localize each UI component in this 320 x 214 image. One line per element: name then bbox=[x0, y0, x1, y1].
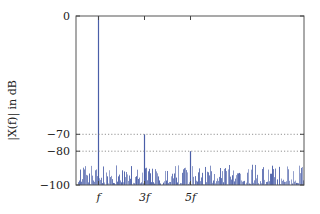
noise-bar bbox=[125, 177, 126, 185]
noise-bar bbox=[107, 176, 108, 185]
noise-bar bbox=[224, 169, 225, 185]
noise-bar bbox=[137, 170, 138, 185]
noise-bar bbox=[286, 181, 287, 185]
noise-bar bbox=[178, 165, 179, 185]
noise-bar bbox=[225, 168, 226, 185]
noise-bar bbox=[234, 181, 235, 185]
noise-bar bbox=[257, 175, 258, 185]
noise-bar bbox=[136, 176, 137, 185]
noise-bar bbox=[111, 176, 112, 185]
noise-bar bbox=[82, 179, 83, 185]
noise-bar bbox=[192, 166, 193, 185]
noise-bar bbox=[142, 173, 143, 185]
noise-bar bbox=[282, 181, 283, 185]
noise-bar bbox=[283, 180, 284, 185]
noise-bar bbox=[230, 177, 231, 185]
noise-bar bbox=[216, 181, 217, 185]
noise-bar bbox=[243, 181, 244, 185]
noise-bar bbox=[252, 165, 253, 185]
x-tick-label: f bbox=[95, 191, 102, 204]
noise-bar bbox=[219, 177, 220, 185]
noise-bar bbox=[295, 181, 296, 185]
noise-bar bbox=[86, 175, 87, 185]
noise-bar bbox=[221, 178, 222, 185]
noise-bar bbox=[275, 169, 276, 185]
noise-bar bbox=[218, 181, 219, 185]
noise-bar bbox=[199, 168, 200, 185]
noise-bar bbox=[281, 179, 282, 185]
noise-bar bbox=[83, 168, 84, 185]
noise-bar bbox=[91, 166, 92, 185]
noise-bar bbox=[79, 181, 80, 185]
noise-bar bbox=[240, 174, 241, 185]
noise-bar bbox=[120, 180, 121, 185]
grid-lines bbox=[76, 134, 304, 151]
noise-bar bbox=[248, 169, 249, 185]
noise-bar bbox=[251, 170, 252, 185]
noise-bar bbox=[254, 180, 255, 185]
noise-bar bbox=[263, 167, 264, 185]
noise-bar bbox=[220, 168, 221, 185]
noise-bar bbox=[99, 178, 100, 185]
noise-bar bbox=[127, 174, 128, 185]
noise-bar bbox=[96, 169, 97, 185]
noise-bar bbox=[205, 167, 206, 185]
noise-bar bbox=[229, 165, 230, 185]
noise-bar bbox=[93, 181, 94, 185]
noise-bar bbox=[171, 176, 172, 185]
noise-bar bbox=[213, 180, 214, 185]
harmonic-peaks bbox=[99, 16, 191, 185]
noise-bar bbox=[256, 178, 257, 185]
noise-bar bbox=[116, 165, 117, 185]
noise-bar bbox=[200, 181, 201, 185]
y-tick-labels: 0−70−80−100 bbox=[40, 10, 70, 192]
noise-bar bbox=[165, 171, 166, 185]
noise-bar bbox=[129, 176, 130, 185]
noise-bar bbox=[233, 170, 234, 185]
noise-bar bbox=[182, 173, 183, 185]
noise-bar bbox=[226, 171, 227, 185]
noise-bar bbox=[80, 170, 81, 185]
noise-bar bbox=[288, 169, 289, 185]
noise-bar bbox=[85, 166, 86, 185]
noise-bar bbox=[273, 169, 274, 185]
noise-bar bbox=[173, 178, 174, 185]
noise-bar bbox=[176, 178, 177, 185]
noise-bar bbox=[270, 174, 271, 185]
noise-bar bbox=[291, 179, 292, 185]
noise-bar bbox=[135, 177, 136, 185]
x-tick-labels: f3f5f bbox=[95, 191, 197, 204]
noise-bar bbox=[260, 181, 261, 185]
noise-bar bbox=[149, 169, 150, 185]
noise-bar bbox=[172, 174, 173, 185]
x-tick-label: 3f bbox=[139, 191, 152, 204]
noise-bar bbox=[195, 176, 196, 185]
noise-bar bbox=[268, 170, 269, 185]
y-tick-label: −100 bbox=[40, 179, 70, 192]
noise-bar bbox=[202, 173, 203, 185]
noise-bar bbox=[84, 169, 85, 185]
noise-bar bbox=[279, 167, 280, 185]
noise-bar bbox=[244, 181, 245, 185]
spectrum-chart: 0−70−80−100 f3f5f |X(f)| in dB bbox=[0, 0, 320, 214]
noise-bar bbox=[287, 166, 288, 185]
noise-bar bbox=[236, 175, 237, 185]
noise-bar bbox=[210, 166, 211, 185]
noise-bar bbox=[238, 173, 239, 185]
noise-bar bbox=[117, 182, 118, 185]
noise-bar bbox=[159, 180, 160, 185]
noise-bar bbox=[262, 169, 263, 185]
noise-bar bbox=[148, 171, 149, 185]
y-tick-label: −80 bbox=[47, 145, 70, 158]
y-tick-label: 0 bbox=[63, 10, 70, 23]
noise-bar bbox=[302, 167, 303, 185]
noise-bar bbox=[237, 173, 238, 185]
noise-bar bbox=[239, 173, 240, 185]
noise-bar bbox=[255, 165, 256, 185]
noise-bar bbox=[128, 181, 129, 185]
noise-bar bbox=[207, 172, 208, 185]
noise-bar bbox=[92, 176, 93, 185]
noise-bar bbox=[146, 168, 147, 185]
y-axis-title: |X(f)| in dB bbox=[6, 80, 20, 141]
noise-bar bbox=[95, 170, 96, 185]
